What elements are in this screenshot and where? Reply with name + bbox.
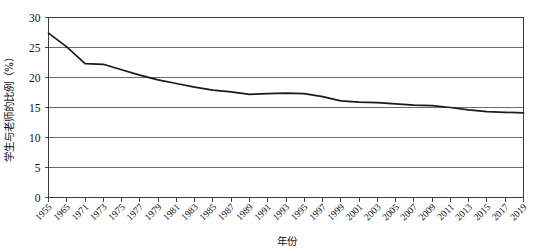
x-tick-label: 1977 bbox=[124, 201, 145, 222]
x-tick-label: 2003 bbox=[361, 201, 382, 222]
x-tick-label: 1993 bbox=[270, 201, 291, 222]
x-tick-label: 1991 bbox=[252, 201, 273, 222]
y-tick-label: 20 bbox=[29, 72, 41, 84]
x-tick-label: 2019 bbox=[508, 201, 529, 222]
x-tick-label: 1975 bbox=[106, 201, 127, 222]
x-tick-label: 1999 bbox=[325, 201, 346, 222]
y-tick-label: 10 bbox=[29, 132, 41, 144]
x-tick-label: 1955 bbox=[33, 201, 54, 222]
y-tick-label: 5 bbox=[35, 162, 41, 174]
x-axis-ticks-group bbox=[49, 198, 524, 202]
y-tick-label: 30 bbox=[29, 12, 41, 24]
x-tick-label: 2007 bbox=[398, 201, 419, 222]
y-tick-label: 0 bbox=[35, 192, 41, 204]
y-tick-label: 25 bbox=[29, 42, 41, 54]
y-axis-ticks-group: 051015202530 bbox=[29, 12, 49, 204]
x-tick-label: 1987 bbox=[215, 201, 236, 222]
x-tick-label: 1979 bbox=[142, 201, 163, 222]
x-tick-label: 1973 bbox=[87, 201, 108, 222]
x-tick-label: 2017 bbox=[489, 201, 510, 222]
x-tick-label: 1983 bbox=[179, 201, 200, 222]
x-tick-label: 2001 bbox=[343, 201, 364, 222]
x-axis-title: 年份 bbox=[277, 235, 298, 247]
chart-container: 051015202530 195519651971197319751977197… bbox=[0, 0, 537, 252]
x-tick-label: 1985 bbox=[197, 201, 218, 222]
x-tick-label: 2005 bbox=[380, 201, 401, 222]
x-tick-label: 2015 bbox=[471, 201, 492, 222]
y-tick-label: 15 bbox=[29, 102, 41, 114]
line-chart: 051015202530 195519651971197319751977197… bbox=[0, 0, 537, 252]
y-axis-title: 学生与老师的比例（%） bbox=[3, 52, 15, 162]
x-tick-label: 2011 bbox=[435, 201, 456, 222]
x-tick-label: 1971 bbox=[69, 201, 90, 222]
x-tick-label: 2009 bbox=[416, 201, 437, 222]
x-tick-label: 1989 bbox=[234, 201, 255, 222]
x-tick-label: 2013 bbox=[453, 201, 474, 222]
x-axis-tick-labels-group: 1955196519711973197519771979198119831985… bbox=[33, 201, 529, 222]
x-tick-label: 1995 bbox=[288, 201, 309, 222]
x-tick-label: 1965 bbox=[51, 201, 72, 222]
x-tick-label: 1997 bbox=[307, 201, 328, 222]
data-series-line bbox=[49, 33, 524, 113]
x-tick-label: 1981 bbox=[160, 201, 181, 222]
